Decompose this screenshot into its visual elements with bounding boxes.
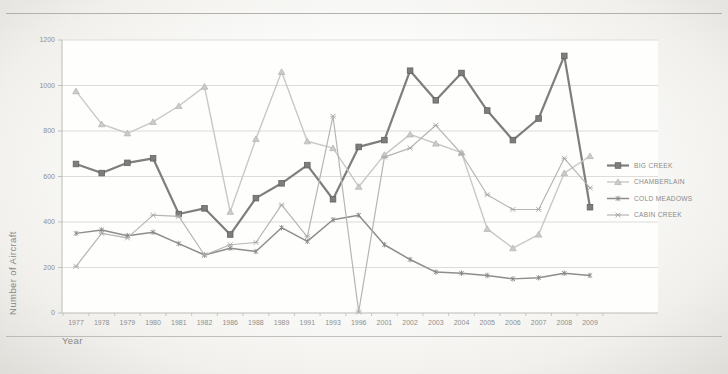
marker-square bbox=[227, 232, 233, 238]
y-tick-label-1200: 1200 bbox=[39, 36, 55, 43]
marker-square bbox=[562, 53, 568, 59]
marker-square bbox=[73, 161, 79, 167]
marker-square bbox=[536, 116, 542, 122]
x-tick-label-1986: 1986 bbox=[222, 319, 238, 326]
y-axis-tick-labels: 020040060080010001200 bbox=[39, 36, 55, 316]
x-tick-label-1977: 1977 bbox=[68, 319, 84, 326]
marker-square bbox=[202, 206, 208, 212]
legend-label: BIG CREEK bbox=[634, 162, 673, 169]
x-tick-label-1981: 1981 bbox=[171, 319, 187, 326]
x-tick-label-1993: 1993 bbox=[325, 319, 341, 326]
x-tick-label-1988: 1988 bbox=[248, 319, 264, 326]
marker-square bbox=[615, 163, 621, 169]
marker-square bbox=[382, 137, 388, 143]
y-tick-label-0: 0 bbox=[51, 309, 55, 316]
marker-square bbox=[459, 70, 465, 76]
x-tick-label-1996: 1996 bbox=[351, 319, 367, 326]
marker-square bbox=[407, 68, 413, 74]
x-axis-title: Year bbox=[62, 335, 83, 346]
legend-label: CHAMBERLAIN bbox=[634, 178, 685, 185]
chart-page: 020040060080010001200 197719781979198019… bbox=[0, 0, 728, 374]
x-tick-label-1979: 1979 bbox=[120, 319, 136, 326]
x-tick-label-2007: 2007 bbox=[531, 319, 547, 326]
marker-square bbox=[305, 162, 311, 168]
y-tick-label-400: 400 bbox=[43, 218, 55, 225]
marker-square bbox=[99, 170, 105, 176]
x-tick-label-2004: 2004 bbox=[454, 319, 470, 326]
marker-square bbox=[253, 195, 259, 201]
marker-square bbox=[125, 160, 131, 166]
y-tick-label-1000: 1000 bbox=[39, 82, 55, 89]
aircraft-line-chart: 020040060080010001200 197719781979198019… bbox=[0, 0, 728, 374]
marker-square bbox=[356, 144, 362, 150]
y-tick-label-200: 200 bbox=[43, 264, 55, 271]
x-tick-label-2003: 2003 bbox=[428, 319, 444, 326]
x-tick-label-1989: 1989 bbox=[274, 319, 290, 326]
y-tick-label-800: 800 bbox=[43, 127, 55, 134]
x-tick-label-2008: 2008 bbox=[557, 319, 573, 326]
marker-square bbox=[433, 97, 439, 103]
marker-square bbox=[330, 196, 336, 202]
marker-square bbox=[279, 181, 285, 187]
marker-square bbox=[587, 204, 593, 210]
x-tick-label-2009: 2009 bbox=[582, 319, 598, 326]
y-tick-label-600: 600 bbox=[43, 173, 55, 180]
legend-item-big-creek: BIG CREEK bbox=[607, 162, 673, 169]
x-tick-label-2002: 2002 bbox=[402, 319, 418, 326]
x-tick-label-1978: 1978 bbox=[94, 319, 110, 326]
x-tick-label-2001: 2001 bbox=[377, 319, 393, 326]
x-tick-label-1982: 1982 bbox=[197, 319, 213, 326]
x-axis-tick-labels: 1977197819791980198119821986198819891991… bbox=[63, 313, 603, 326]
x-tick-label-1980: 1980 bbox=[145, 319, 161, 326]
marker-square bbox=[150, 156, 156, 162]
legend-label: COLD MEADOWS bbox=[634, 195, 693, 202]
marker-square bbox=[484, 108, 490, 114]
legend-label: CABIN CREEK bbox=[634, 211, 682, 218]
x-tick-label-1991: 1991 bbox=[300, 319, 316, 326]
marker-square bbox=[510, 137, 516, 143]
x-tick-label-2005: 2005 bbox=[479, 319, 495, 326]
legend-item-chamberlain: CHAMBERLAIN bbox=[607, 178, 685, 185]
y-axis-title: Number of Aircraft bbox=[7, 231, 18, 315]
x-tick-label-2006: 2006 bbox=[505, 319, 521, 326]
